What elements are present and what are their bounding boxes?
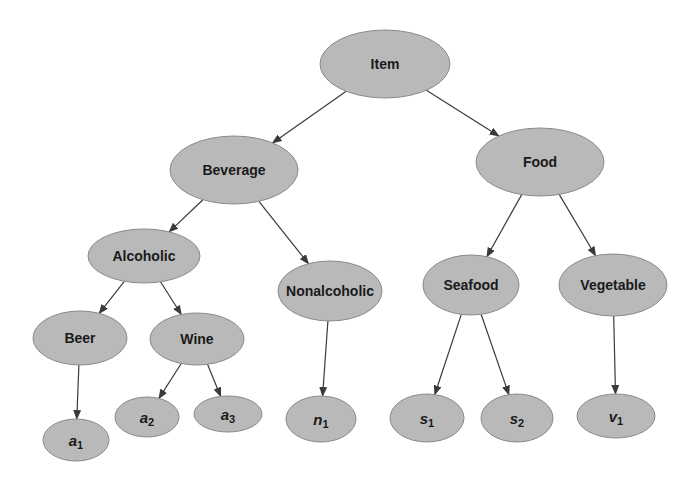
node-beer: Beer [33, 311, 127, 365]
node-vegetable: Vegetable [559, 254, 667, 316]
edge-wine-to-a3 [208, 364, 221, 396]
edge-vegetable-to-v1 [614, 316, 616, 394]
concept-hierarchy-diagram: ItemBeverageFoodAlcoholicNonalcoholicSea… [0, 0, 700, 484]
node-food: Food [476, 128, 604, 196]
node-label-wine: Wine [180, 331, 214, 347]
leaf-subscript: 1 [323, 418, 329, 430]
leaf-subscript: 1 [617, 415, 623, 427]
leaf-subscript: 1 [428, 417, 434, 429]
edge-item-to-beverage [273, 91, 347, 143]
node-alcoholic: Alcoholic [88, 229, 200, 283]
edge-beverage-to-nonalcoholic [259, 201, 309, 263]
node-label-vegetable: Vegetable [580, 277, 646, 293]
edge-alcoholic-to-beer [99, 281, 124, 313]
nodes-layer: ItemBeverageFoodAlcoholicNonalcoholicSea… [33, 30, 667, 461]
leaf-symbol: a [69, 432, 77, 449]
node-s1: s1 [390, 394, 464, 442]
node-wine: Wine [150, 313, 244, 365]
node-label-food: Food [523, 154, 557, 170]
node-label-beer: Beer [64, 330, 96, 346]
leaf-subscript: 1 [77, 439, 83, 451]
node-a1: a1 [43, 419, 109, 461]
edge-beverage-to-alcoholic [169, 200, 203, 232]
node-a3: a3 [194, 396, 262, 432]
edge-alcoholic-to-wine [161, 282, 182, 315]
node-nonalcoholic: Nonalcoholic [278, 261, 382, 321]
node-label-item: Item [371, 56, 400, 72]
node-v1: v1 [577, 394, 655, 438]
node-label-beverage: Beverage [202, 162, 265, 178]
edge-item-to-food [426, 90, 498, 136]
edge-nonalcoholic-to-n1 [323, 321, 328, 396]
edge-food-to-seafood [487, 195, 522, 257]
node-seafood: Seafood [423, 255, 519, 315]
edge-beer-to-a1 [77, 365, 79, 419]
edge-wine-to-a2 [159, 364, 181, 399]
leaf-subscript: 2 [148, 416, 154, 428]
node-a2: a2 [115, 397, 179, 437]
leaf-symbol: n [313, 411, 322, 428]
edge-seafood-to-s2 [481, 314, 509, 394]
leaf-symbol: a [140, 409, 148, 426]
leaf-subscript: 2 [518, 417, 524, 429]
node-label-alcoholic: Alcoholic [112, 248, 175, 264]
node-label-nonalcoholic: Nonalcoholic [286, 283, 374, 299]
leaf-symbol: s [510, 410, 518, 427]
node-label-seafood: Seafood [443, 277, 498, 293]
node-n1: n1 [286, 396, 356, 442]
node-item: Item [320, 30, 450, 98]
node-s2: s2 [481, 394, 553, 442]
node-beverage: Beverage [170, 136, 298, 204]
leaf-symbol: s [420, 410, 428, 427]
edge-seafood-to-s1 [435, 314, 462, 394]
edge-food-to-vegetable [559, 194, 595, 255]
leaf-subscript: 3 [229, 413, 235, 425]
leaf-symbol: a [221, 406, 229, 423]
